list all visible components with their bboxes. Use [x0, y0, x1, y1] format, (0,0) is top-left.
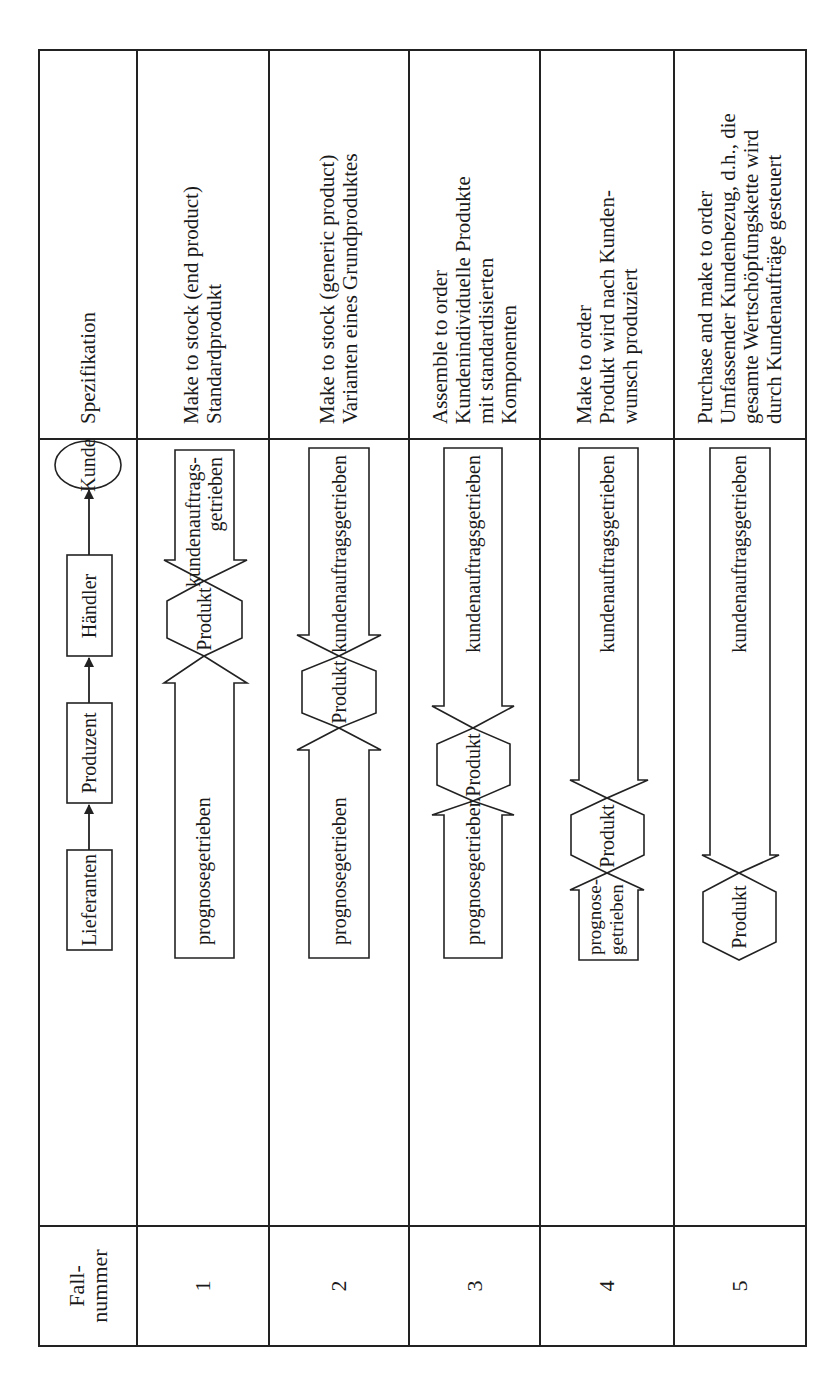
forecast-label-line1: prognose- — [584, 879, 605, 955]
flow-diagram: Produkt kundenauftragsgetrieben — [675, 438, 805, 1225]
forecast-label: prognosegetrieben — [462, 797, 485, 945]
spec-line: Make to order — [573, 65, 596, 424]
product-hexagon-icon: Produkt — [703, 873, 776, 960]
header-case-number-line1: Fall- — [65, 1265, 88, 1307]
product-label: Produkt — [462, 733, 484, 797]
spec-line: Make to stock (generic product) — [316, 65, 339, 424]
dealer-box: Händler — [67, 555, 112, 656]
flow-diagram: prognosegetrieben Produkt kundenauftrags… — [138, 438, 268, 1225]
table-frame: Fall- nummer Lieferanten — [38, 49, 807, 1347]
table-row: 4 prognose- getrieben Produkt kundenauft… — [541, 51, 675, 1345]
header-specification-label: Spezifikation — [77, 65, 100, 424]
order-arrow-icon: kundenauftrags- getrieben — [164, 450, 247, 587]
header-case-number: Fall- nummer — [40, 1225, 136, 1345]
product-label: Produkt — [328, 660, 350, 724]
forecast-label-line2: getrieben — [606, 884, 627, 955]
table-row: 1 prognosegetrieben Produkt kundenauftra… — [138, 51, 270, 1345]
case-number: 4 — [541, 1225, 673, 1345]
producer-label: Produzent — [78, 712, 100, 794]
flow-diagram: prognosegetrieben Produkt kundenauftrags… — [410, 438, 539, 1225]
order-label: kundenauftragsgetrieben — [328, 455, 351, 653]
order-arrow-icon: kundenauftragsgetrieben — [570, 448, 648, 798]
spec-line: Make to stock (end product) — [180, 65, 203, 424]
case-number: 2 — [270, 1225, 408, 1345]
specification: Make to stock (end product) Standardprod… — [138, 51, 268, 438]
product-hexagon-icon: Produkt — [437, 728, 510, 801]
spec-line: mit standardisierten — [475, 65, 498, 424]
order-label-line1: kundenauftrags- — [182, 457, 205, 587]
case-number: 3 — [410, 1225, 539, 1345]
case-number: 5 — [675, 1225, 805, 1345]
product-label: Produkt — [193, 587, 215, 651]
table-row: 5 Produkt kundenauftragsgetrieben Purcha… — [675, 51, 805, 1345]
specification: Purchase and make to order Umfassender K… — [675, 51, 805, 438]
supplier-label: Lieferanten — [78, 854, 100, 946]
specification: Make to stock (generic product) Variante… — [270, 51, 408, 438]
specification: Assemble to order Kundenindividuelle Pro… — [410, 51, 539, 438]
product-hexagon-icon: Produkt — [571, 798, 644, 873]
product-hexagon-icon: Produkt — [302, 656, 376, 728]
specification: Make to order Produkt wird nach Kunden- … — [541, 51, 673, 438]
customer-label: Kunde — [77, 438, 99, 491]
spec-line: Komponenten — [498, 65, 521, 424]
order-label: kundenauftragsgetrieben — [462, 455, 485, 653]
spec-line: Kundenindividuelle Produkte — [452, 65, 475, 424]
header-specification: Spezifikation — [40, 51, 136, 438]
table-row: 2 prognosegetrieben Produkt kundenauftra… — [270, 51, 410, 1345]
order-label: kundenauftragsgetrieben — [728, 455, 751, 653]
order-label: kundenauftragsgetrieben — [596, 455, 619, 653]
spec-line: Umfassender Kundenbezug, d.h., die — [717, 65, 740, 424]
product-label: Produkt — [728, 885, 750, 949]
order-label-line2: getrieben — [204, 457, 227, 531]
spec-line: Standardprodukt — [203, 65, 226, 424]
forecast-label: prognosegetrieben — [192, 797, 215, 945]
order-arrow-icon: kundenauftragsgetrieben — [702, 448, 779, 873]
spec-line: gesamte Wertschöpfungskette wird — [740, 65, 763, 424]
header-case-number-line2: nummer — [88, 1249, 111, 1322]
supplier-box: Lieferanten — [67, 850, 112, 950]
order-arrow-icon: kundenauftragsgetrieben — [432, 448, 514, 728]
product-hexagon-icon: Produkt — [167, 581, 242, 656]
product-label: Produkt — [596, 804, 618, 868]
producer-box: Produzent — [67, 703, 112, 803]
spec-line: Varianten eines Grundproduktes — [339, 65, 362, 424]
spec-line: wunsch produziert — [619, 65, 642, 424]
header-supply-chain: Lieferanten Produzent Händler Kunde — [40, 438, 136, 1225]
forecast-arrow-icon: prognosegetrieben — [432, 797, 514, 958]
forecast-arrow-icon: prognosegetrieben — [164, 656, 247, 958]
forecast-arrow-icon: prognosegetrieben — [297, 728, 381, 958]
dealer-label: Händler — [78, 573, 100, 638]
forecast-label: prognosegetrieben — [328, 797, 351, 945]
spec-line: Assemble to order — [429, 65, 452, 424]
spec-line: Produkt wird nach Kunden- — [596, 65, 619, 424]
order-arrow-icon: kundenauftragsgetrieben — [297, 448, 381, 656]
flow-diagram: prognosegetrieben Produkt kundenauftrags… — [270, 438, 408, 1225]
forecast-arrow-icon: prognose- getrieben — [570, 873, 644, 960]
supply-chain-diagram: Lieferanten Produzent Händler Kunde — [40, 438, 136, 1225]
case-number: 1 — [138, 1225, 268, 1345]
spec-line: Purchase and make to order — [694, 65, 717, 424]
customer-ellipse: Kunde — [55, 438, 121, 491]
header-row: Fall- nummer Lieferanten — [40, 51, 138, 1345]
decoupling-point-table: Fall- nummer Lieferanten — [38, 49, 807, 1347]
table-row: 3 prognosegetrieben Produkt kundenauftra… — [410, 51, 541, 1345]
spec-line: durch Kundenaufträge gesteuert — [763, 65, 786, 424]
flow-diagram: prognose- getrieben Produkt kundenauftra… — [541, 438, 673, 1225]
